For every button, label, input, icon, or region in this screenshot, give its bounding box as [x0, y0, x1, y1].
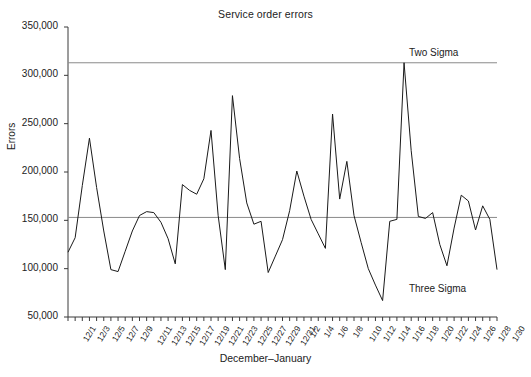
data-series: [68, 63, 497, 301]
series-line: [68, 63, 497, 301]
chart-container: Service order errors Errors December–Jan…: [0, 0, 531, 377]
plot-area: [0, 0, 531, 377]
reference-lines: [68, 63, 497, 218]
axis-lines: [64, 27, 497, 321]
